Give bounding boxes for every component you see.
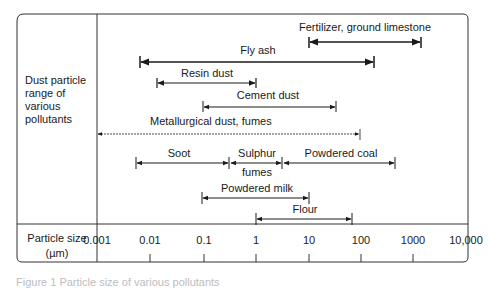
label-cement-dust: Cement dust bbox=[237, 89, 299, 101]
label-resin-dust: Resin dust bbox=[181, 67, 233, 79]
row-title-line: pollutants bbox=[25, 113, 86, 126]
label-metallurgical: Metallurgical dust, fumes bbox=[150, 115, 272, 127]
range-cement-dust bbox=[203, 101, 336, 112]
tick-label: 1000 bbox=[401, 234, 425, 246]
tick-label: 10 bbox=[303, 234, 315, 246]
axis-title-unit: (µm) bbox=[27, 246, 86, 261]
tick-label: 0.1 bbox=[196, 234, 211, 246]
range-resin-dust bbox=[157, 78, 256, 88]
range-fertilizer bbox=[309, 37, 421, 48]
label-flour: Flour bbox=[292, 203, 317, 215]
label-powdered-milk: Powdered milk bbox=[221, 182, 293, 194]
row-title-line: various bbox=[25, 100, 86, 113]
tick-label: 1 bbox=[253, 234, 259, 246]
axis-title-line: Particle size bbox=[27, 231, 86, 246]
range-fly-ash bbox=[140, 56, 374, 68]
row-title-line: range of bbox=[25, 87, 86, 100]
label-sulphur: Sulphur bbox=[238, 147, 276, 159]
label-powdered-coal: Powdered coal bbox=[305, 147, 378, 159]
tick-label: 100 bbox=[352, 234, 370, 246]
axis-ticks bbox=[150, 254, 413, 262]
label-soot: Soot bbox=[168, 147, 191, 159]
tick-label: 0.001 bbox=[83, 234, 111, 246]
label-fumes: fumes bbox=[242, 166, 272, 178]
row-title-line: Dust particle bbox=[25, 74, 86, 87]
tick-label: 0.01 bbox=[139, 234, 160, 246]
label-fertilizer: Fertilizer, ground limestone bbox=[299, 21, 431, 33]
row-title: Dust particle range of various pollutant… bbox=[25, 74, 86, 126]
label-fly-ash: Fly ash bbox=[240, 44, 275, 56]
figure-caption: Figure 1 Particle size of various pollut… bbox=[16, 276, 220, 288]
range-metallurgical bbox=[98, 129, 360, 140]
axis-title: Particle size (µm) bbox=[27, 231, 86, 261]
tick-label: 10,000 bbox=[449, 234, 483, 246]
